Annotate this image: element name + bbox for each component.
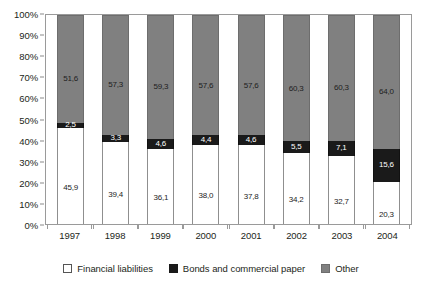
- bar-column[interactable]: 57,64,637,8: [238, 15, 265, 224]
- stacked-bar-chart: 100%90%80%70%60%50%40%30%20%10%0% 51,62,…: [0, 0, 422, 287]
- bar-segment-value-label: 39,4: [108, 191, 123, 199]
- bar-segment-value-label: 45,9: [63, 184, 78, 192]
- legend-item-label: Bonds and commercial paper: [183, 263, 305, 274]
- bar-column[interactable]: 57,33,339,4: [102, 15, 129, 224]
- bar-segment-bonds[interactable]: 4,6: [238, 135, 265, 145]
- x-axis-tick-label: 1997: [56, 225, 83, 241]
- bar-column[interactable]: 64,015,620,3: [373, 15, 400, 224]
- y-axis-tick-label: 100%: [14, 9, 38, 20]
- y-axis-tick-mark: [40, 119, 44, 120]
- bar-column[interactable]: 51,62,545,9: [57, 15, 84, 224]
- legend-item[interactable]: Financial liabilities: [63, 263, 153, 274]
- bar-segment-value-label: 57,3: [108, 81, 123, 89]
- bar-segment-value-label: 4,4: [201, 136, 212, 144]
- bar-segment-other[interactable]: 64,0: [373, 15, 400, 149]
- y-axis-tick-mark: [40, 98, 44, 99]
- bar-segment-other[interactable]: 57,6: [192, 15, 219, 135]
- bar-segment-value-label: 20,3: [379, 211, 394, 219]
- bar-segment-bonds[interactable]: 7,1: [328, 141, 355, 156]
- bar-column[interactable]: 59,34,636,1: [147, 15, 174, 224]
- bar-segment-value-label: 37,8: [244, 193, 259, 201]
- y-axis-tick-label: 70%: [19, 72, 38, 83]
- y-axis-tick-mark: [40, 14, 44, 15]
- y-axis-tick-mark: [40, 161, 44, 162]
- bar-segment-financial-liabilities[interactable]: 45,9: [57, 128, 84, 224]
- chart-legend: Financial liabilitiesBonds and commercia…: [0, 256, 422, 280]
- y-axis-tick-label: 40%: [19, 135, 38, 146]
- y-axis-tick-mark: [40, 182, 44, 183]
- bar-segment-value-label: 32,7: [334, 198, 349, 206]
- y-axis-tick-mark: [40, 225, 44, 226]
- bar-segment-value-label: 7,1: [336, 144, 347, 152]
- bar-segment-value-label: 59,3: [153, 83, 168, 91]
- bar-segment-value-label: 60,3: [289, 85, 304, 93]
- legend-item-label: Financial liabilities: [77, 263, 153, 274]
- y-axis-tick-label: 0%: [24, 220, 38, 231]
- bar-segment-value-label: 15,6: [379, 161, 394, 169]
- bar-segment-value-label: 57,6: [244, 82, 259, 90]
- legend-swatch-icon: [169, 264, 178, 273]
- bar-segment-value-label: 60,3: [334, 84, 349, 92]
- bar-segment-other[interactable]: 60,3: [328, 15, 355, 141]
- y-axis-tick-label: 20%: [19, 177, 38, 188]
- x-axis-tick-label: 2001: [238, 225, 265, 241]
- y-axis-tick-label: 90%: [19, 30, 38, 41]
- bar-segment-other[interactable]: 60,3: [283, 15, 310, 141]
- plot-area: 51,62,545,957,33,339,459,34,636,157,64,4…: [45, 14, 412, 225]
- bar-segment-value-label: 38,0: [199, 192, 214, 200]
- bar-segment-bonds[interactable]: 4,6: [147, 139, 174, 149]
- bar-segment-value-label: 34,2: [289, 196, 304, 204]
- legend-item-label: Other: [335, 263, 359, 274]
- y-axis-tick-label: 30%: [19, 156, 38, 167]
- bar-segment-value-label: 5,5: [291, 143, 302, 151]
- y-axis-tick-mark: [40, 140, 44, 141]
- bar-segment-value-label: 4,6: [156, 140, 167, 148]
- y-axis-tick-label: 10%: [19, 198, 38, 209]
- bar-segment-financial-liabilities[interactable]: 36,1: [147, 149, 174, 224]
- x-axis-tick-label: 2000: [192, 225, 219, 241]
- bar-segment-other[interactable]: 57,6: [238, 15, 265, 135]
- x-axis-tick-label: 2003: [328, 225, 355, 241]
- bar-segment-bonds[interactable]: 5,5: [283, 141, 310, 152]
- bar-series-group: 51,62,545,957,33,339,459,34,636,157,64,4…: [46, 15, 411, 224]
- legend-swatch-icon: [63, 264, 72, 273]
- y-axis-tick-label: 80%: [19, 51, 38, 62]
- bar-segment-financial-liabilities[interactable]: 37,8: [238, 145, 265, 224]
- bar-column[interactable]: 60,37,132,7: [328, 15, 355, 224]
- y-axis-tick-mark: [40, 203, 44, 204]
- x-axis-tick-label: 1998: [102, 225, 129, 241]
- bar-segment-other[interactable]: 57,3: [102, 15, 129, 135]
- x-axis-tick-label: 1999: [147, 225, 174, 241]
- bar-segment-value-label: 51,6: [63, 75, 78, 83]
- bar-segment-bonds[interactable]: 4,4: [192, 135, 219, 144]
- x-axis-tick-label: 2002: [283, 225, 310, 241]
- y-axis-tick-label: 60%: [19, 93, 38, 104]
- bar-segment-value-label: 36,1: [153, 194, 168, 202]
- bar-segment-value-label: 57,6: [199, 82, 214, 90]
- bar-column[interactable]: 57,64,438,0: [192, 15, 219, 224]
- bar-segment-other[interactable]: 51,6: [57, 15, 84, 123]
- bar-segment-bonds[interactable]: 15,6: [373, 149, 400, 182]
- bar-segment-value-label: 4,6: [246, 136, 257, 144]
- bar-segment-other[interactable]: 59,3: [147, 15, 174, 139]
- bar-segment-financial-liabilities[interactable]: 34,2: [283, 153, 310, 224]
- bar-segment-financial-liabilities[interactable]: 39,4: [102, 142, 129, 224]
- legend-item[interactable]: Bonds and commercial paper: [169, 263, 305, 274]
- y-axis-tick-mark: [40, 77, 44, 78]
- bar-segment-financial-liabilities[interactable]: 38,0: [192, 145, 219, 224]
- bar-column[interactable]: 60,35,534,2: [283, 15, 310, 224]
- x-axis: 19971998199920002001200220032004: [45, 225, 412, 247]
- legend-swatch-icon: [321, 264, 330, 273]
- bar-segment-financial-liabilities[interactable]: 20,3: [373, 182, 400, 224]
- y-axis: 100%90%80%70%60%50%40%30%20%10%0%: [0, 14, 44, 225]
- legend-item[interactable]: Other: [321, 263, 359, 274]
- bar-segment-financial-liabilities[interactable]: 32,7: [328, 156, 355, 224]
- y-axis-tick-mark: [40, 35, 44, 36]
- x-axis-tick-label: 2004: [374, 225, 401, 241]
- bar-segment-value-label: 64,0: [379, 88, 394, 96]
- bar-segment-bonds[interactable]: 3,3: [102, 135, 129, 142]
- y-axis-tick-mark: [40, 56, 44, 57]
- y-axis-tick-label: 50%: [19, 114, 38, 125]
